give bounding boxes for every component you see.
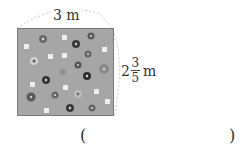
small-white-flower-icon (24, 35, 110, 113)
answer-open-paren: ( (80, 126, 86, 145)
height-numerator: 3 (132, 57, 140, 69)
answer-close-paren: ) (229, 126, 235, 145)
flowers-pattern (18, 29, 115, 117)
height-unit: m (143, 64, 156, 78)
height-fraction: 3 5 (131, 57, 140, 84)
answer-blank[interactable] (92, 127, 222, 145)
flower-garden-rectangle (17, 28, 114, 116)
flower-icon (27, 33, 110, 113)
height-label: 2 3 5 m (121, 57, 156, 84)
width-label: 3 m (51, 8, 82, 22)
height-whole: 2 (121, 64, 130, 78)
height-denominator: 5 (132, 72, 140, 84)
